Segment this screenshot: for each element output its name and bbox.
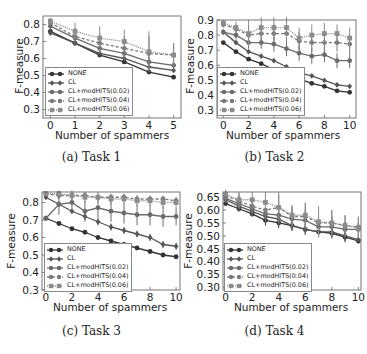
legend-label: NONE <box>68 69 87 78</box>
caption: (a) Task 1 <box>0 150 183 164</box>
data-point-marker <box>174 254 179 259</box>
legend-label: CL <box>68 78 76 87</box>
data-point-marker <box>259 25 264 30</box>
y-axis-label: F-measure <box>13 36 25 96</box>
legend-item: CL+modHITS(0.02) <box>220 87 301 96</box>
legend-swatch-icon <box>48 97 64 105</box>
y-tick-label: 0.6 <box>22 231 39 243</box>
data-point-marker <box>229 274 233 278</box>
legend-label: NONE <box>240 69 259 78</box>
legend-label: CL+modHITS(0.06) <box>68 105 129 114</box>
legend: NONECLCL+modHITS(0.02)CL+modHITS(0.04)CL… <box>44 243 132 292</box>
legend-label: CL <box>67 254 75 263</box>
y-tick-label: 0.45 <box>197 243 220 255</box>
data-point-marker <box>174 200 179 205</box>
data-point-marker <box>237 265 241 269</box>
data-point-marker <box>135 212 140 217</box>
y-tick-label: 0.35 <box>197 268 220 280</box>
legend-item: NONE <box>47 245 128 254</box>
data-point-marker <box>284 46 289 51</box>
data-point-marker <box>276 205 281 210</box>
y-tick-label: 0.7 <box>197 44 214 56</box>
legend-label: CL+modHITS(0.02) <box>68 87 129 96</box>
legend-swatch-icon <box>227 282 243 290</box>
data-point-marker <box>122 228 127 234</box>
data-point-marker <box>234 25 239 30</box>
data-point-marker <box>335 58 340 63</box>
y-tick-label: 0.8 <box>197 29 214 41</box>
panel-task-4: 0.300.350.400.450.500.550.600.650246810 … <box>183 177 366 354</box>
y-tick-label: 0.3 <box>197 104 214 116</box>
y-tick-label: 0.65 <box>197 191 220 203</box>
data-point-marker <box>335 82 340 88</box>
y-tick-label: 0.9 <box>197 14 214 26</box>
data-point-marker <box>122 211 127 216</box>
caption: (c) Task 3 <box>0 324 183 338</box>
data-point-marker <box>297 36 302 41</box>
data-point-marker <box>174 214 179 219</box>
legend-swatch-icon <box>227 273 243 281</box>
legend-label: CL+modHITS(0.06) <box>247 281 308 290</box>
y-tick-label: 0.5 <box>23 69 40 81</box>
legend-item: CL+modHITS(0.04) <box>220 96 301 105</box>
legend: NONECLCL+modHITS(0.02)CL+modHITS(0.04)CL… <box>217 67 305 116</box>
data-point-marker <box>246 31 251 36</box>
data-point-marker <box>230 98 234 102</box>
panel-task-3: 0.30.40.50.60.70.80246810 F-measure Numb… <box>0 177 183 354</box>
data-point-marker <box>109 197 114 202</box>
data-point-marker <box>161 214 166 219</box>
y-tick-label: 0.3 <box>23 103 40 115</box>
y-tick-label: 0.7 <box>23 35 40 47</box>
data-point-marker <box>148 198 153 203</box>
data-point-marker <box>309 54 314 59</box>
data-point-marker <box>96 205 101 210</box>
data-point-marker <box>290 213 295 218</box>
legend-swatch-icon <box>48 70 64 78</box>
data-point-marker <box>148 235 153 241</box>
data-point-marker <box>83 230 88 235</box>
data-point-marker <box>230 80 234 85</box>
legend-item: CL <box>47 254 128 263</box>
data-point-marker <box>347 36 352 41</box>
legend-label: CL <box>247 254 255 263</box>
legend-label: NONE <box>67 245 86 254</box>
panel-task-2: 0.30.40.50.60.70.80.90246810 F-measure N… <box>183 0 366 177</box>
data-point-marker <box>335 31 340 36</box>
data-point-marker <box>50 89 54 93</box>
data-point-marker <box>284 25 289 30</box>
legend-item: CL <box>220 78 301 87</box>
legend-label: CL <box>240 78 248 87</box>
data-point-marker <box>171 75 176 80</box>
data-point-marker <box>161 253 166 258</box>
data-point-marker <box>221 40 226 45</box>
data-point-marker <box>259 53 264 59</box>
data-point-marker <box>148 212 153 217</box>
y-tick-label: 0.5 <box>197 74 214 86</box>
legend-label: CL+modHITS(0.06) <box>240 105 301 114</box>
legend-label: CL+modHITS(0.06) <box>67 281 128 290</box>
legend-item: CL+modHITS(0.06) <box>220 105 301 114</box>
legend-item: NONE <box>48 69 129 78</box>
data-point-marker <box>109 209 114 214</box>
legend-label: NONE <box>247 245 266 254</box>
series-cl-modhits-0-06- <box>48 18 176 72</box>
data-point-marker <box>347 83 352 89</box>
y-tick-label: 0.60 <box>197 204 220 216</box>
data-point-marker <box>309 81 314 86</box>
data-point-marker <box>222 98 226 102</box>
data-point-marker <box>83 195 88 200</box>
data-point-marker <box>230 89 234 93</box>
data-point-marker <box>271 25 276 30</box>
y-tick-label: 0.4 <box>22 266 39 278</box>
legend-item: NONE <box>227 245 308 254</box>
data-point-marker <box>222 80 226 85</box>
data-point-marker <box>49 256 53 261</box>
legend: NONECLCL+modHITS(0.02)CL+modHITS(0.04)CL… <box>224 243 312 292</box>
data-point-marker <box>221 30 226 35</box>
data-point-marker <box>147 49 152 54</box>
data-point-marker <box>222 71 226 75</box>
data-point-marker <box>309 33 314 38</box>
data-point-marker <box>50 80 54 85</box>
data-point-marker <box>57 247 61 251</box>
data-point-marker <box>97 36 102 41</box>
